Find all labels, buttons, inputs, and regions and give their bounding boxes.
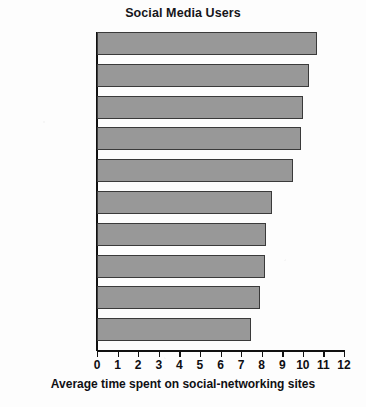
bar-chile xyxy=(97,159,293,182)
x-tick-mark xyxy=(344,350,345,357)
x-tick-mark xyxy=(200,350,201,357)
x-tick-mark xyxy=(323,350,324,357)
bar-peru xyxy=(97,255,265,278)
bar-row xyxy=(97,64,344,87)
bar-row xyxy=(97,159,344,182)
x-tick-mark xyxy=(138,350,139,357)
chart-title: Social Media Users xyxy=(0,6,366,20)
bar-row xyxy=(97,286,344,309)
x-tick-mark xyxy=(303,350,304,357)
bar-russia xyxy=(97,96,303,119)
x-tick-mark xyxy=(179,350,180,357)
bar-row xyxy=(97,255,344,278)
bar-row xyxy=(97,127,344,150)
plot-area xyxy=(97,32,344,350)
x-axis-title: Average time spent on social-networking … xyxy=(0,377,366,391)
bar-canada xyxy=(97,318,251,341)
bar-venezuela xyxy=(97,286,260,309)
bar-philippines xyxy=(97,191,272,214)
bar-row xyxy=(97,191,344,214)
x-tick-mark xyxy=(118,350,119,357)
bar-chart: Social Media Users 0123456789101112 Aver… xyxy=(0,0,366,407)
x-tick-mark xyxy=(97,350,98,357)
bar-argentina xyxy=(97,64,309,87)
bar-colombia xyxy=(97,223,266,246)
x-tick-mark xyxy=(159,350,160,357)
bar-row xyxy=(97,96,344,119)
bar-row xyxy=(97,223,344,246)
x-tick-mark xyxy=(221,350,222,357)
x-tick-mark xyxy=(262,350,263,357)
bar-turkey xyxy=(97,127,301,150)
bar-row xyxy=(97,32,344,55)
x-tick-mark xyxy=(282,350,283,357)
bar-row xyxy=(97,318,344,341)
x-tick-mark xyxy=(241,350,242,357)
bar-israel xyxy=(97,32,317,55)
x-tick-label: 12 xyxy=(329,358,359,372)
